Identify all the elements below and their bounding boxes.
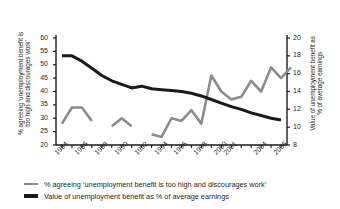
right-tick-label: 14 [293, 87, 309, 94]
left-tick-label: 40 [32, 87, 48, 94]
tick-marks [53, 38, 290, 148]
series-lines [62, 56, 291, 137]
right-tick-label: 16 [293, 69, 309, 76]
left-tick-label: 60 [32, 34, 48, 41]
legend-item: % agreeing ‘unemployment benefit is too … [24, 178, 324, 190]
left-tick-label: 25 [32, 127, 48, 134]
chart-root: % agreeing ‘unemployment benefit istoo h… [0, 0, 340, 209]
right-tick-label: 18 [293, 51, 309, 58]
legend-item: Value of unemployment benefit as % of av… [24, 190, 324, 202]
legend: % agreeing ‘unemployment benefit is too … [24, 178, 324, 202]
left-tick-label: 50 [32, 60, 48, 67]
legend-label: % agreeing ‘unemployment benefit is too … [44, 180, 266, 189]
left-tick-label: 55 [32, 47, 48, 54]
right-tick-label: 10 [293, 123, 309, 130]
left-tick-label: 35 [32, 100, 48, 107]
right-tick-label: 8 [293, 141, 309, 148]
right-tick-label: 20 [293, 34, 309, 41]
right-tick-label: 12 [293, 105, 309, 112]
left-tick-label: 20 [32, 141, 48, 148]
legend-label: Value of unemployment benefit as % of av… [44, 192, 229, 201]
legend-swatch-icon [24, 183, 38, 186]
left-tick-label: 45 [32, 74, 48, 81]
legend-swatch-icon [24, 194, 38, 197]
left-tick-label: 30 [32, 114, 48, 121]
